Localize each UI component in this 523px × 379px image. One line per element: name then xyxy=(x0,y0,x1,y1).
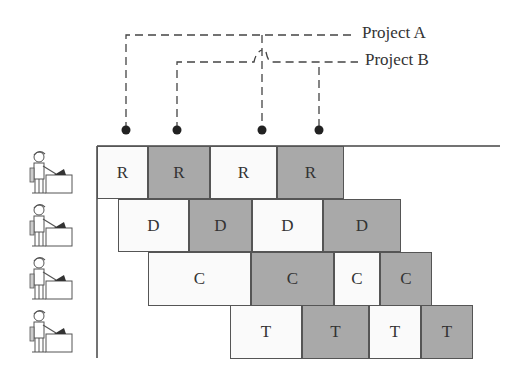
task-cell: D xyxy=(323,199,401,252)
task-cell: D xyxy=(118,199,189,252)
milestone-dot xyxy=(258,126,267,135)
milestone-dot xyxy=(173,126,182,135)
project-label: Project A xyxy=(362,23,426,43)
task-cell: C xyxy=(251,252,334,306)
task-cell: D xyxy=(189,199,252,252)
task-cell: T xyxy=(369,305,421,359)
task-cell: T xyxy=(302,305,369,359)
worker-at-desk-icon xyxy=(26,307,76,355)
task-cell: R xyxy=(148,146,210,199)
worker-at-desk-icon xyxy=(26,201,76,249)
task-cell: R xyxy=(97,146,148,199)
task-cell: T xyxy=(421,305,473,359)
milestone-dot xyxy=(122,126,131,135)
task-cell: C xyxy=(334,252,380,306)
task-cell: D xyxy=(252,199,323,252)
task-cell: T xyxy=(230,305,302,359)
project-label: Project B xyxy=(365,50,429,70)
worker-at-desk-icon xyxy=(26,254,76,302)
task-cell: R xyxy=(210,146,277,199)
worker-at-desk-icon xyxy=(26,148,76,196)
task-cell: R xyxy=(277,146,344,199)
milestone-dot xyxy=(315,126,324,135)
task-cell: C xyxy=(380,252,432,306)
pipeline-diagram: RRRRDDDDCCCCTTTT Project AProject B xyxy=(0,0,523,379)
task-cell: C xyxy=(148,252,251,306)
